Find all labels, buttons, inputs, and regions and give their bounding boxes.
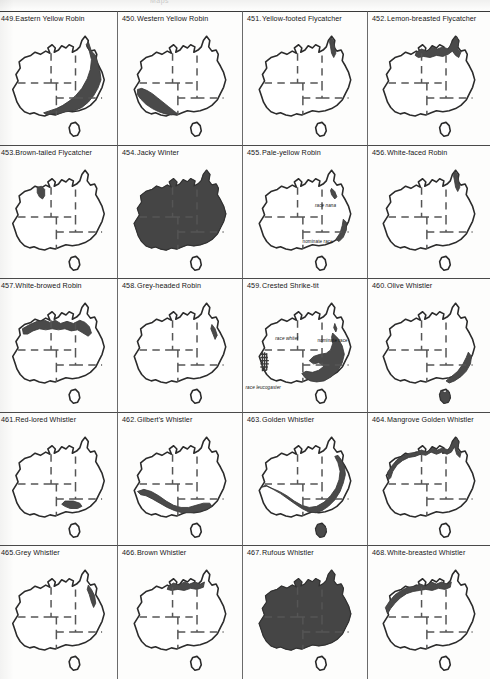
map-number: 458. [122,282,137,291]
australia-outline [13,571,104,671]
australia-outline [13,170,104,270]
race-label: race leucogaster [245,385,280,390]
map-cell[interactable]: 452.Lemon-breasted Flycatcher [368,11,490,145]
species-name: Rufous Whistler [262,549,314,558]
map-cell[interactable]: 454.Jacky Winter [118,145,243,279]
map-caption: 458.Grey-headed Robin [122,282,240,291]
map-caption: 462.Gilbert's Whistler [122,416,240,425]
map-number: 453. [1,149,15,158]
distribution-map [118,166,242,277]
distribution-map [368,32,490,143]
species-name: White-browed Robin [15,282,81,291]
distribution-map [243,32,367,143]
species-name: Olive Whistler [387,282,432,291]
species-name: Crested Shrike-tit [262,282,319,291]
australia-outline [13,437,104,537]
map-caption: 453.Brown-tailed Flycatcher [1,149,115,158]
map-number: 452. [372,15,387,24]
distribution-map [118,32,242,143]
running-head-left: Maps [150,0,169,4]
map-cell[interactable]: 466.Brown Whistler [118,545,243,679]
map-cell[interactable]: 458.Grey-headed Robin [118,278,243,412]
map-cell[interactable]: 459.Crested Shrike-titrace whiteinominat… [243,278,368,412]
map-caption: 460.Olive Whistler [372,282,488,291]
distribution-map: race nananominate race [243,166,367,277]
map-caption: 454.Jacky Winter [122,149,240,158]
species-name: Yellow-footed Flycatcher [262,15,342,24]
map-caption: 451.Yellow-footed Flycatcher [247,15,365,24]
distribution-map [118,566,242,677]
australia-outline [383,170,474,270]
map-caption: 455.Pale-yellow Robin [247,149,365,158]
map-cell[interactable]: 449.Eastern Yellow Robin [0,11,118,145]
map-number: 460. [372,282,387,291]
range-shading [134,170,225,250]
map-cell[interactable]: 468.White-breasted Whistler [368,545,490,679]
map-cell[interactable]: 456.White-faced Robin [368,145,490,279]
australia-outline [383,303,474,403]
map-cell[interactable]: 457.White-browed Robin [0,278,118,412]
map-number: 463. [247,416,262,425]
distribution-map [118,299,242,410]
species-name: White-faced Robin [387,149,447,158]
map-number: 461. [1,416,15,425]
map-cell[interactable]: 465.Grey Whistler [0,545,118,679]
map-number: 459. [247,282,262,291]
map-caption: 459.Crested Shrike-tit [247,282,365,291]
map-cell[interactable]: 461.Red-lored Whistler [0,412,118,546]
species-name: Gilbert's Whistler [137,416,192,425]
map-caption: 465.Grey Whistler [1,549,115,558]
map-cell[interactable]: 450.Western Yellow Robin [118,11,243,145]
map-caption: 463.Golden Whistler [247,416,365,425]
map-caption: 467.Rufous Whistler [247,549,365,558]
race-label: race whitei [275,336,298,341]
map-number: 449. [1,15,15,24]
map-cell[interactable]: 462.Gilbert's Whistler [118,412,243,546]
map-caption: 466.Brown Whistler [122,549,240,558]
distribution-map [118,433,242,544]
range-shading [259,571,350,651]
distribution-map [243,433,367,544]
map-number: 451. [247,15,262,24]
species-name: Lemon-breasted Flycatcher [387,15,476,24]
map-number: 454. [122,149,137,158]
race-label: race nana [315,203,336,208]
running-head: Maps [0,0,490,11]
map-cell[interactable]: 464.Mangrove Golden Whistler [368,412,490,546]
map-cell[interactable]: 451.Yellow-footed Flycatcher [243,11,368,145]
distribution-map [0,32,117,143]
map-number: 466. [122,549,137,558]
australia-outline [13,303,104,403]
species-name: Golden Whistler [262,416,314,425]
distribution-map: race whiteinominate racerace leucogaster [243,299,367,410]
map-cell[interactable]: 467.Rufous Whistler [243,545,368,679]
map-cell[interactable]: 463.Golden Whistler [243,412,368,546]
australia-outline [259,170,350,270]
species-name: Red-lored Whistler [15,416,76,425]
race-label: nominate race [303,239,333,244]
species-name: Brown Whistler [137,549,186,558]
distribution-map [0,166,117,277]
map-cell[interactable]: 453.Brown-tailed Flycatcher [0,145,118,279]
species-name: Jacky Winter [137,149,179,158]
australia-outline [134,437,225,537]
map-cell[interactable]: 455.Pale-yellow Robinrace nananominate r… [243,145,368,279]
map-number: 468. [372,549,387,558]
species-name: Eastern Yellow Robin [15,15,84,24]
map-caption: 457.White-browed Robin [1,282,115,291]
map-plate: 449.Eastern Yellow Robin450.Western Yell… [0,11,490,679]
map-grid: 449.Eastern Yellow Robin450.Western Yell… [0,11,490,679]
map-number: 462. [122,416,137,425]
australia-outline [134,303,225,403]
distribution-map [0,433,117,544]
species-name: Grey-headed Robin [137,282,201,291]
species-name: Grey Whistler [15,549,59,558]
map-caption: 468.White-breasted Whistler [372,549,488,558]
map-caption: 450.Western Yellow Robin [122,15,240,24]
species-name: Mangrove Golden Whistler [387,416,474,425]
map-number: 456. [372,149,387,158]
map-cell[interactable]: 460.Olive Whistler [368,278,490,412]
map-number: 467. [247,549,262,558]
distribution-map [368,433,490,544]
species-name: Brown-tailed Flycatcher [15,149,92,158]
